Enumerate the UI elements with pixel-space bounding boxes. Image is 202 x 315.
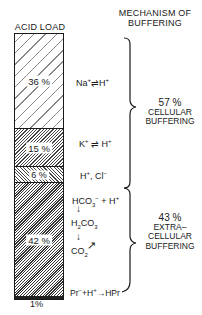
segment-na-h: 36 % <box>15 34 63 129</box>
cellular-brace-icon <box>124 38 136 188</box>
bracket-icon <box>118 36 140 296</box>
mechanism-title: MECHANISM OF BUFFERING <box>108 8 202 28</box>
segment-label: 36 % <box>26 76 52 87</box>
acid-load-title: ACID LOAD <box>10 22 70 32</box>
group-extracellular: 43 % EXTRA– CELLULAR BUFFERING <box>138 213 202 251</box>
co2-out-arrow-icon: ↗ <box>87 240 96 251</box>
mechanism-title-line2: BUFFERING <box>108 18 202 28</box>
group-cellular: 57 % CELLULAR BUFFERING <box>138 98 202 127</box>
segment-k-h: 15 % <box>15 129 63 167</box>
down-arrow-icon: ↓ <box>76 232 81 242</box>
mechanism-bicarbonate-line3: CO2 <box>71 246 88 260</box>
mechanism-protein: Pr−+H+→HPr <box>70 285 120 298</box>
group-cellular-line2: BUFFERING <box>138 117 202 127</box>
forward-arrow-icon: → <box>97 288 106 298</box>
mechanism-h-cl: H+, Cl− <box>80 168 107 181</box>
mechanism-title-line1: MECHANISM OF <box>108 8 202 18</box>
extracellular-brace-icon <box>122 188 136 292</box>
segment-h-cl: 6 % <box>15 167 63 183</box>
mechanism-na-h: Na+⇌H+ <box>76 75 109 88</box>
acid-load-bar: 36 % 15 % 6 % 42 % <box>14 33 64 300</box>
segment-bicarbonate: 42 % <box>15 183 63 296</box>
segment-label-protein: 1% <box>30 299 43 309</box>
mechanism-k-h: K+ ⇌ H+ <box>79 136 112 149</box>
segment-label: 15 % <box>26 142 52 153</box>
segment-label: 42 % <box>26 234 52 245</box>
exchange-arrow-icon: ⇌ <box>91 78 99 88</box>
mechanism-bicarbonate-line2: H2CO3 <box>71 218 98 232</box>
segment-label: 6 % <box>29 170 49 179</box>
down-arrow-icon: ↓ <box>76 204 81 214</box>
group-extracellular-line3: BUFFERING <box>138 242 202 252</box>
exchange-arrow-icon: ⇌ <box>91 139 99 149</box>
